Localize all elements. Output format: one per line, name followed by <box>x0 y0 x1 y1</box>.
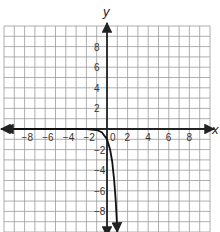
x-tick-label: 8 <box>186 132 192 143</box>
x-tick-label: 0 <box>110 132 116 143</box>
coordinate-plane: −8−6−4−2024688642−2−4−6−8 x y <box>0 0 220 232</box>
x-tick-label: −6 <box>42 132 54 143</box>
x-tick-label: −4 <box>63 132 75 143</box>
x-tick-label: 6 <box>166 132 172 143</box>
y-tick-label: 8 <box>94 42 100 53</box>
y-tick-label: −4 <box>94 165 106 176</box>
y-tick-label: −2 <box>94 145 106 156</box>
y-tick-label: 6 <box>94 62 100 73</box>
y-axis-label: y <box>102 4 111 19</box>
x-axis-label: x <box>211 122 219 137</box>
y-tick-label: −8 <box>94 206 106 217</box>
y-tick-label: 4 <box>94 83 100 94</box>
x-tick-label: −2 <box>83 132 95 143</box>
x-tick-label: 2 <box>125 132 131 143</box>
x-tick-label: 4 <box>145 132 151 143</box>
y-tick-label: −6 <box>94 186 106 197</box>
x-tick-label: −8 <box>22 132 34 143</box>
axes <box>1 23 214 232</box>
y-tick-label: 2 <box>94 103 100 114</box>
